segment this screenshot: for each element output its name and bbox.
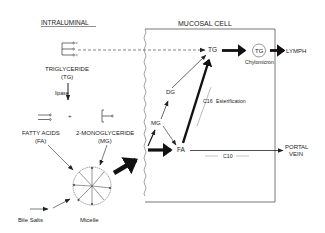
mg-to-micelle-arrow [100, 145, 107, 165]
mucosal-cell-heading: MUCOSAL CELL [178, 20, 232, 27]
bile-salts-label: Bile Salts [18, 217, 43, 223]
micelle-label: Micelle [80, 217, 99, 223]
portal-vein-label-line2: VEIN [289, 151, 303, 157]
diagram-canvas [0, 0, 325, 233]
fa-to-micelle-arrow [48, 145, 73, 170]
triglyceride-structure-icon [62, 42, 78, 56]
micelle-to-cell-bold-arrow [114, 160, 136, 173]
portal-vein-label-line1: PORTAL [285, 144, 308, 150]
fatty-acids-label: FATTY ACIDS [22, 130, 60, 136]
intraluminal-heading: INTRALUMINAL [41, 20, 89, 27]
lymph-label: LYMPH [286, 48, 306, 54]
cell-mg-node: MG [151, 120, 161, 126]
cell-fa-node: FA [177, 147, 185, 154]
triglyceride-abbrev: (TG) [61, 74, 73, 80]
cell-dg-node: DG [166, 89, 175, 95]
c10-label: C10 [223, 154, 233, 159]
triglyceride-label: TRIGLYCERIDE [45, 66, 89, 72]
monoglyceride-label: 2-MONOGLYCERIDE [76, 130, 134, 136]
mucosal-cell-wavy-membrane [144, 29, 146, 196]
mg-to-fa-arrow [163, 126, 176, 145]
esterification-label: Esterification [216, 99, 246, 104]
monoglyceride-abbrev: (MG) [98, 138, 112, 144]
chylomicron-label: Chylomicron [245, 60, 274, 65]
mg-to-dg-arrow [161, 101, 168, 119]
monoglyceride-structure-icon [102, 110, 113, 122]
entry-to-mg-arrow [148, 130, 155, 146]
fatty-acids-abbrev: (FA) [35, 138, 46, 144]
micelle-icon [73, 167, 111, 205]
mucosal-cell-box [145, 29, 275, 202]
fatty-acids-structure-icon [38, 114, 51, 120]
lipase-label: lipase [55, 91, 69, 96]
bile-salts-to-micelle-arrow [53, 199, 70, 208]
plus-sign: + [68, 113, 72, 119]
cell-tg-node: TG [208, 47, 217, 54]
chylomicron-tg-node: TG [255, 48, 263, 54]
c16-label: C16 [203, 99, 213, 104]
